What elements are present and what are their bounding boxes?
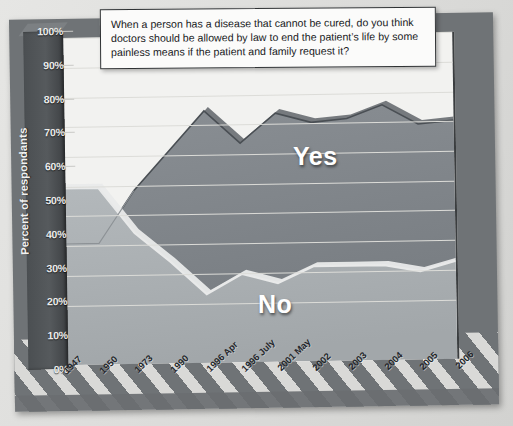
x-tick-label: 1996 Apr xyxy=(204,339,240,374)
question-text: When a person has a disease that cannot … xyxy=(111,15,426,60)
x-tick-label: 2004 xyxy=(382,349,405,371)
x-tick-label: 1950 xyxy=(97,353,120,375)
x-tick-label: 1947 xyxy=(61,354,84,376)
x-tick-label: 2006 xyxy=(453,349,476,371)
x-tick-label: 1990 xyxy=(168,352,191,374)
x-tick-label: 2001 May xyxy=(275,336,313,373)
x-tick-label: 2002 xyxy=(310,350,333,372)
x-tick-label: 1973 xyxy=(132,353,155,375)
x-tick-label: 2003 xyxy=(346,350,369,372)
chart-screenshot: 0%10%20%30%40%50%60%70%80%90%100% Percen… xyxy=(0,0,513,426)
series-label-no: No xyxy=(258,290,292,319)
x-tick-label: 1996 July xyxy=(239,336,277,373)
question-callout: When a person has a disease that cannot … xyxy=(100,7,436,69)
series-label-yes: Yes xyxy=(293,142,338,171)
x-tick-label: 2005 xyxy=(417,349,440,371)
